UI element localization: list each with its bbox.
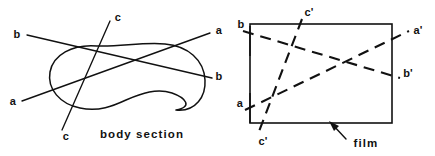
label-b-left: b bbox=[14, 28, 21, 40]
label-c-prime-bottom: c' bbox=[258, 135, 267, 147]
film-caption: film bbox=[354, 137, 379, 149]
label-a-right: a bbox=[216, 24, 223, 36]
figure-canvas: b a b a c c body section bbox=[0, 0, 435, 156]
label-a-prime-out: a' bbox=[413, 24, 422, 36]
label-a-left: a bbox=[10, 95, 17, 107]
label-c-prime-top: c' bbox=[304, 6, 313, 18]
body-section-caption: body section bbox=[100, 128, 184, 140]
diagram-svg: b a b a c c body section bbox=[0, 0, 435, 156]
left-panel-group: b a b a c c body section bbox=[10, 11, 223, 142]
right-panel-group: b c' a' b' a c' film bbox=[237, 6, 423, 149]
label-c-bottom: c bbox=[63, 130, 69, 142]
body-section-outline bbox=[50, 44, 205, 111]
ray-c-prime-line bbox=[258, 19, 302, 134]
ray-b-prime-line bbox=[243, 31, 400, 78]
ray-a-line bbox=[22, 33, 210, 101]
ray-b-line bbox=[27, 35, 212, 78]
label-b-in: b bbox=[238, 18, 245, 30]
label-b-right: b bbox=[216, 70, 223, 82]
label-c-top: c bbox=[115, 11, 121, 23]
label-b-prime-out: b' bbox=[403, 67, 413, 79]
label-a-in: a bbox=[237, 97, 244, 109]
ray-a-prime-line bbox=[245, 31, 409, 110]
film-frame bbox=[250, 24, 392, 123]
ray-c-line bbox=[62, 21, 110, 130]
